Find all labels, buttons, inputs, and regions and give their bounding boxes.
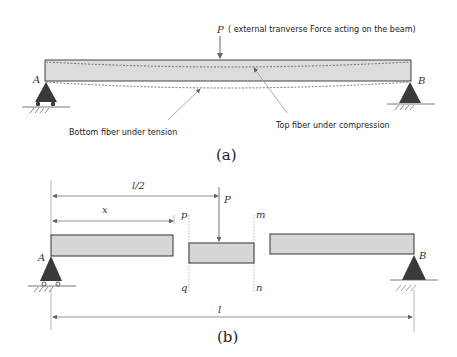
- section-label-p: p: [181, 209, 188, 220]
- support-label-a-b: A: [37, 252, 45, 263]
- support-label-a: A: [32, 74, 40, 85]
- pin-support-b: [387, 82, 435, 110]
- pin-support-b-b: [390, 255, 438, 291]
- dim-label-x: x: [102, 204, 108, 215]
- force-symbol-b: P: [223, 194, 231, 205]
- section-label-q: q: [181, 282, 187, 293]
- section-label-n: n: [256, 282, 262, 293]
- figure-b: l/2 x P p q m n A B: [28, 180, 438, 346]
- dim-label-total: l: [218, 304, 221, 315]
- annotation-compression: Top fiber under compression: [275, 121, 390, 130]
- section-label-m: m: [256, 209, 265, 220]
- annotation-tension: Bottom fiber under tension: [69, 128, 177, 137]
- force-symbol-a: P: [216, 24, 224, 35]
- roller-support-a: [22, 82, 70, 113]
- caption-b: (b): [217, 328, 238, 346]
- deflected-bottom-fiber: [46, 82, 410, 88]
- beam-segment-middle: [189, 243, 254, 263]
- beam-segment-left: [51, 235, 173, 256]
- force-description: ( external tranverse Force acting on the…: [228, 25, 416, 34]
- leader-bottom-fiber: [168, 89, 200, 120]
- support-label-b-b: B: [418, 250, 426, 261]
- beam-a: [45, 60, 411, 81]
- roller-support-a-b: [28, 256, 76, 292]
- figure-a: P ( external tranverse Force acting on t…: [22, 24, 435, 164]
- caption-a: (a): [216, 146, 237, 164]
- dim-label-half: l/2: [132, 180, 145, 191]
- support-label-b: B: [417, 75, 425, 86]
- beam-segment-right: [270, 234, 414, 254]
